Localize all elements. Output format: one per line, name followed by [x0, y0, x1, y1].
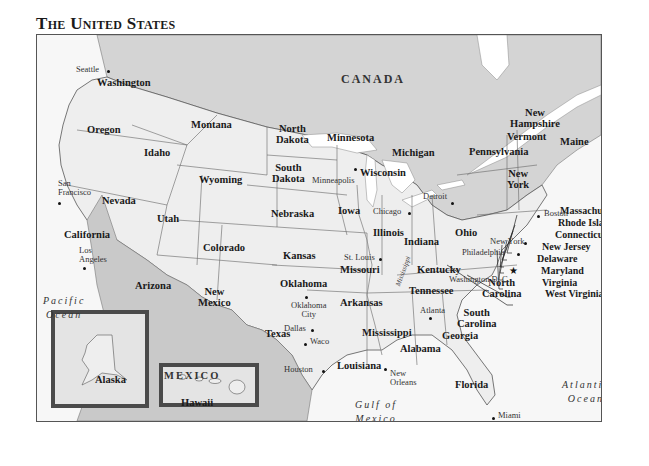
label-missouri: Missouri	[340, 264, 380, 275]
city-dot-minneapolis	[354, 168, 357, 171]
label-delaware: Delaware	[537, 254, 577, 265]
label-oklahoma: Oklahoma	[280, 278, 327, 289]
city-dot-oklahoma-city	[305, 296, 308, 299]
city-dot-waco	[304, 343, 307, 346]
label-oregon: Oregon	[87, 124, 121, 135]
city-dot-atlanta	[429, 317, 432, 320]
label-tennessee: Tennessee	[409, 285, 454, 296]
label-chicago: Chicago	[373, 207, 401, 216]
label-washington: Washington	[97, 77, 151, 88]
label-kansas: Kansas	[283, 250, 316, 261]
label-new-hampshire: New Hampshire	[510, 107, 560, 129]
label-wyoming: Wyoming	[199, 174, 242, 185]
city-dot-chicago	[408, 212, 411, 215]
label-pacific-ocean: Pacific Ocean	[43, 296, 85, 320]
label-detroit: Detroit	[423, 192, 447, 201]
label-vermont: Vermont	[507, 131, 546, 142]
label-minneapolis: Minneapolis	[312, 176, 355, 185]
label-atlanta: Atlanta	[420, 306, 445, 315]
map-title: The United States	[36, 14, 176, 34]
label-connecticut: Connecticut	[555, 230, 602, 241]
capital-star-washington-dc: ★	[509, 266, 518, 276]
label-wisconsin: Wisconsin	[360, 167, 406, 178]
label-idaho: Idaho	[144, 147, 170, 158]
label-seattle: Seattle	[76, 65, 99, 74]
label-colorado: Colorado	[203, 242, 245, 253]
label-alabama: Alabama	[400, 343, 441, 354]
label-arizona: Arizona	[135, 280, 171, 291]
label-georgia: Georgia	[442, 330, 478, 341]
us-map: CANADA MEXICO Pacific Ocean Atlantic Oce…	[36, 34, 602, 422]
label-utah: Utah	[157, 213, 179, 224]
label-pennsylvania: Pennsylvania	[469, 146, 529, 157]
city-dot-new-orleans	[384, 368, 387, 371]
city-dot-st-louis	[379, 258, 382, 261]
label-arkansas: Arkansas	[340, 297, 383, 308]
label-south-carolina: South Carolina	[457, 307, 496, 329]
label-houston: Houston	[284, 365, 313, 374]
label-nevada: Nevada	[102, 195, 136, 206]
label-michigan: Michigan	[392, 147, 435, 158]
label-new-york: New York	[507, 168, 529, 190]
city-dot-miami	[492, 417, 495, 420]
label-waco: Waco	[310, 337, 329, 346]
label-louisiana: Louisiana	[337, 360, 381, 371]
label-philadelphia: Philadelphia	[462, 248, 505, 257]
label-ohio: Ohio	[455, 227, 477, 238]
label-new-jersey: New Jersey	[542, 242, 591, 253]
label-indiana: Indiana	[404, 236, 439, 247]
label-maine: Maine	[560, 136, 589, 147]
label-new-york-city: New York	[490, 237, 524, 246]
city-dot-boston	[537, 215, 540, 218]
label-minnesota: Minnesota	[327, 132, 374, 143]
label-washington-dc: Washington D. C.	[449, 275, 510, 284]
label-rhode-island: Rhode Island	[558, 218, 602, 229]
city-dot-los-angeles	[83, 267, 86, 270]
label-mississippi: Mississippi	[362, 327, 412, 338]
label-san-francisco: San Francisco	[58, 179, 91, 197]
label-canada: CANADA	[341, 73, 405, 86]
label-illinois: Illinois	[373, 227, 404, 238]
city-dot-detroit	[451, 202, 454, 205]
label-west-virginia: West Virginia	[545, 289, 602, 300]
label-montana: Montana	[191, 119, 232, 130]
label-nebraska: Nebraska	[271, 208, 314, 219]
label-virginia: Virginia	[542, 278, 577, 289]
label-mexico: MEXICO	[164, 370, 220, 381]
map-graphic	[37, 35, 601, 421]
city-dot-san-francisco	[58, 202, 61, 205]
city-dot-philadelphia	[517, 253, 520, 256]
label-maryland: Maryland	[541, 266, 584, 277]
label-hawaii: Hawaii	[181, 397, 213, 408]
label-florida: Florida	[455, 379, 488, 390]
city-dot-seattle	[107, 70, 110, 73]
label-new-orleans: New Orleans	[390, 369, 416, 387]
label-alaska: Alaska	[95, 374, 126, 385]
label-new-mexico: New Mexico	[198, 286, 231, 308]
label-gulf-of-mexico: Gulf of Mexico	[355, 400, 397, 422]
city-dot-dallas	[311, 329, 314, 332]
label-st-louis: St. Louis	[344, 253, 375, 262]
label-los-angeles: Los Angeles	[79, 246, 107, 264]
label-south-dakota: South Dakota	[272, 162, 305, 184]
label-dallas: Dallas	[284, 324, 306, 333]
label-california: California	[64, 229, 110, 240]
label-iowa: Iowa	[338, 205, 360, 216]
label-oklahoma-city: Oklahoma City	[291, 301, 326, 319]
label-miami: Miami	[498, 411, 521, 420]
city-dot-houston	[322, 370, 325, 373]
label-boston: Boston	[544, 209, 568, 218]
label-north-dakota: North Dakota	[276, 123, 309, 145]
label-atlantic-ocean: Atlantic Ocean	[562, 380, 602, 404]
